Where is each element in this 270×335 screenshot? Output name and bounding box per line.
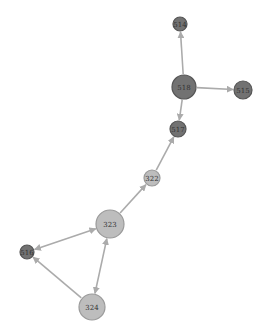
node-518[interactable]: 518 bbox=[172, 75, 196, 99]
node-label: 322 bbox=[145, 175, 158, 183]
edges-layer bbox=[33, 32, 233, 298]
node-516[interactable]: 516 bbox=[20, 245, 34, 259]
edge-518-514 bbox=[181, 32, 184, 74]
node-label: 324 bbox=[85, 304, 99, 312]
node-label: 514 bbox=[173, 21, 187, 29]
edge-323-324 bbox=[95, 239, 107, 294]
node-515[interactable]: 515 bbox=[234, 81, 252, 99]
edge-323-322 bbox=[120, 185, 146, 213]
edge-518-515 bbox=[197, 88, 233, 90]
node-label: 323 bbox=[103, 221, 116, 229]
edge-323-516 bbox=[35, 229, 96, 250]
node-label: 517 bbox=[171, 126, 184, 134]
network-diagram: 514518515517322323516324 bbox=[0, 0, 270, 335]
node-label: 518 bbox=[177, 84, 190, 92]
edge-322-517 bbox=[156, 137, 174, 170]
node-323[interactable]: 323 bbox=[96, 210, 124, 238]
node-517[interactable]: 517 bbox=[170, 121, 186, 137]
node-label: 516 bbox=[20, 249, 34, 257]
node-label: 515 bbox=[236, 87, 249, 95]
node-322[interactable]: 322 bbox=[144, 170, 160, 186]
node-324[interactable]: 324 bbox=[79, 294, 105, 320]
node-514[interactable]: 514 bbox=[173, 17, 187, 31]
edge-518-517 bbox=[179, 100, 182, 120]
edge-324-516 bbox=[33, 257, 81, 298]
